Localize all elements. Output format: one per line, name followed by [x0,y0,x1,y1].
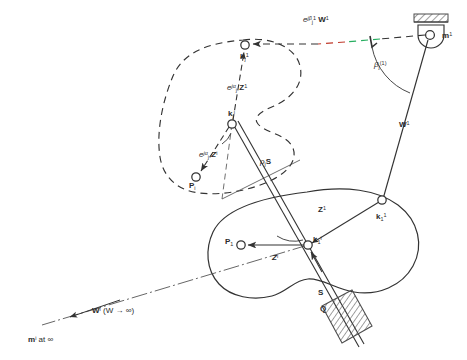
joint-kj1[interactable] [241,41,249,49]
joint-kji[interactable] [228,120,236,128]
label-k1i: k1i [313,236,322,245]
label-kj1: kj1 [240,53,249,62]
diagram-vector-layer [0,0,467,360]
label-mi-at-infinity: mi at ∞ [28,336,53,344]
label-W1-link: W1 [399,121,410,129]
label-Z1: Z1 [318,206,326,214]
label-Zi: Zi [272,254,278,262]
label-k11: k11 [376,213,387,222]
label-kji: kji [228,110,235,119]
label-P1: P1 [225,238,233,247]
joint-k11[interactable] [378,196,386,204]
label-e-jalpha-Z1: ejαj Z1 [227,84,247,93]
point-Pi[interactable] [192,173,200,181]
label-Pi: Pi [189,182,196,191]
label-m1: m1 [442,32,452,40]
label-beta-angle: βj(1) [374,61,386,70]
point-P1[interactable] [237,241,245,249]
diagram-canvas: ejβj1 W1 m1 βj(1) W1 kj1 ejαj Z1 kji ejα… [0,0,467,360]
label-Q-point: Q [320,305,326,313]
slider-ground-block [322,290,372,343]
joint-k1i[interactable] [304,241,312,249]
label-Wi-infinite: Wi (W → ∞) [92,307,134,315]
rotated-dyad-vector-e-jbeta-W1 [253,35,425,47]
label-e-jbeta-W1: ejβj1 W1 [303,16,329,25]
label-rho-j-S: ρjS [260,158,271,167]
label-S-axis: S [318,289,323,297]
label-e-jalpha-Zi: ejαj Zi [199,151,217,160]
infinite-dyad-direction-line [42,245,308,325]
slider-direction-arrow [311,252,322,272]
